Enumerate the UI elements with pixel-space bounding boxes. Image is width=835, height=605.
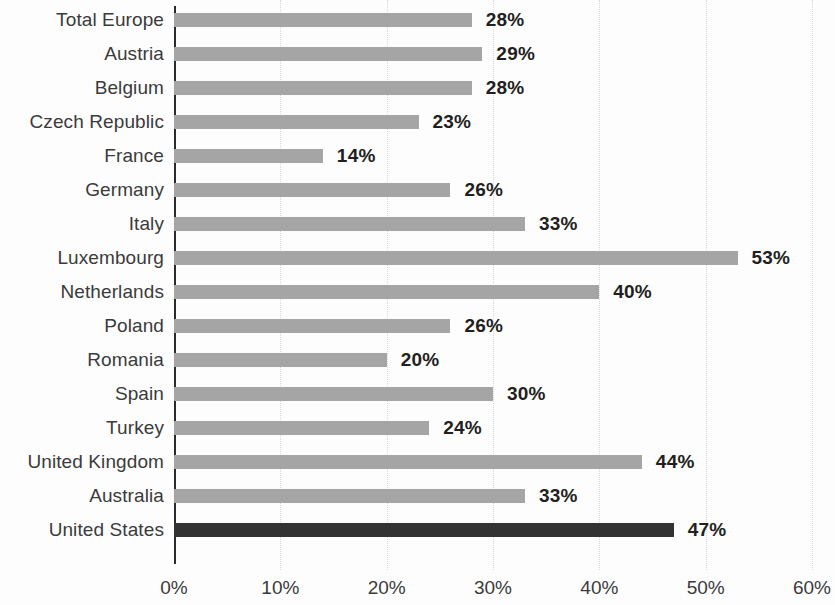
bar [174,523,674,537]
category-label: Germany [0,179,164,201]
category-label: Romania [0,349,164,371]
bar-row: United Kingdom44% [0,451,835,485]
bar-row: Spain30% [0,383,835,417]
bar-value-label: 26% [464,316,503,336]
category-label: Netherlands [0,281,164,303]
bar-value-label: 47% [688,520,727,540]
bar [174,13,472,27]
bar-value-label: 26% [464,180,503,200]
bar-value-label: 53% [752,248,791,268]
category-label: Austria [0,43,164,65]
bar [174,421,429,435]
bar-row: Czech Republic23% [0,111,835,145]
bar-value-label: 20% [401,350,440,370]
bar-row: Poland26% [0,315,835,349]
bar-row: Turkey24% [0,417,835,451]
x-axis: 0%10%20%30%40%50%60% [0,570,835,605]
bar [174,251,738,265]
category-label: Turkey [0,417,164,439]
bar-row: Netherlands40% [0,281,835,315]
bar [174,149,323,163]
category-label: Czech Republic [0,111,164,133]
bar-chart: Total Europe28%Austria29%Belgium28%Czech… [0,0,835,605]
category-label: United Kingdom [0,451,164,473]
bar-row: Romania20% [0,349,835,383]
category-label: United States [0,519,164,541]
bar-value-label: 33% [539,214,578,234]
bar-value-label: 40% [613,282,652,302]
bar-value-label: 28% [486,78,525,98]
bar-row: Italy33% [0,213,835,247]
bar [174,353,387,367]
bar-value-label: 33% [539,486,578,506]
bar-row: United States47% [0,519,835,553]
bar-row: Belgium28% [0,77,835,111]
bar-row: Australia33% [0,485,835,519]
bar [174,81,472,95]
category-label: Spain [0,383,164,405]
bar [174,285,599,299]
bar-row: France14% [0,145,835,179]
x-tick-label: 0% [144,576,204,600]
bar-value-label: 23% [433,112,472,132]
bar [174,455,642,469]
x-tick-label: 40% [569,576,629,600]
bar-row: Germany26% [0,179,835,213]
category-label: France [0,145,164,167]
bar [174,217,525,231]
bar-value-label: 44% [656,452,695,472]
bar [174,319,450,333]
x-tick-label: 20% [357,576,417,600]
bar-value-label: 14% [337,146,376,166]
bar-value-label: 30% [507,384,546,404]
bar [174,387,493,401]
category-label: Italy [0,213,164,235]
category-label: Australia [0,485,164,507]
category-label: Total Europe [0,9,164,31]
bar-row: Austria29% [0,43,835,77]
bar [174,115,419,129]
bar-rows: Total Europe28%Austria29%Belgium28%Czech… [0,0,835,570]
category-label: Belgium [0,77,164,99]
bar-value-label: 24% [443,418,482,438]
category-label: Poland [0,315,164,337]
x-tick-label: 30% [463,576,523,600]
x-tick-label: 60% [782,576,835,600]
plot-area: Total Europe28%Austria29%Belgium28%Czech… [0,0,835,570]
bar [174,489,525,503]
bar-value-label: 29% [496,44,535,64]
category-label: Luxembourg [0,247,164,269]
x-tick-label: 10% [250,576,310,600]
x-tick-label: 50% [676,576,736,600]
bar-row: Luxembourg53% [0,247,835,281]
bar-row: Total Europe28% [0,9,835,43]
bar [174,47,482,61]
bar [174,183,450,197]
bar-value-label: 28% [486,10,525,30]
